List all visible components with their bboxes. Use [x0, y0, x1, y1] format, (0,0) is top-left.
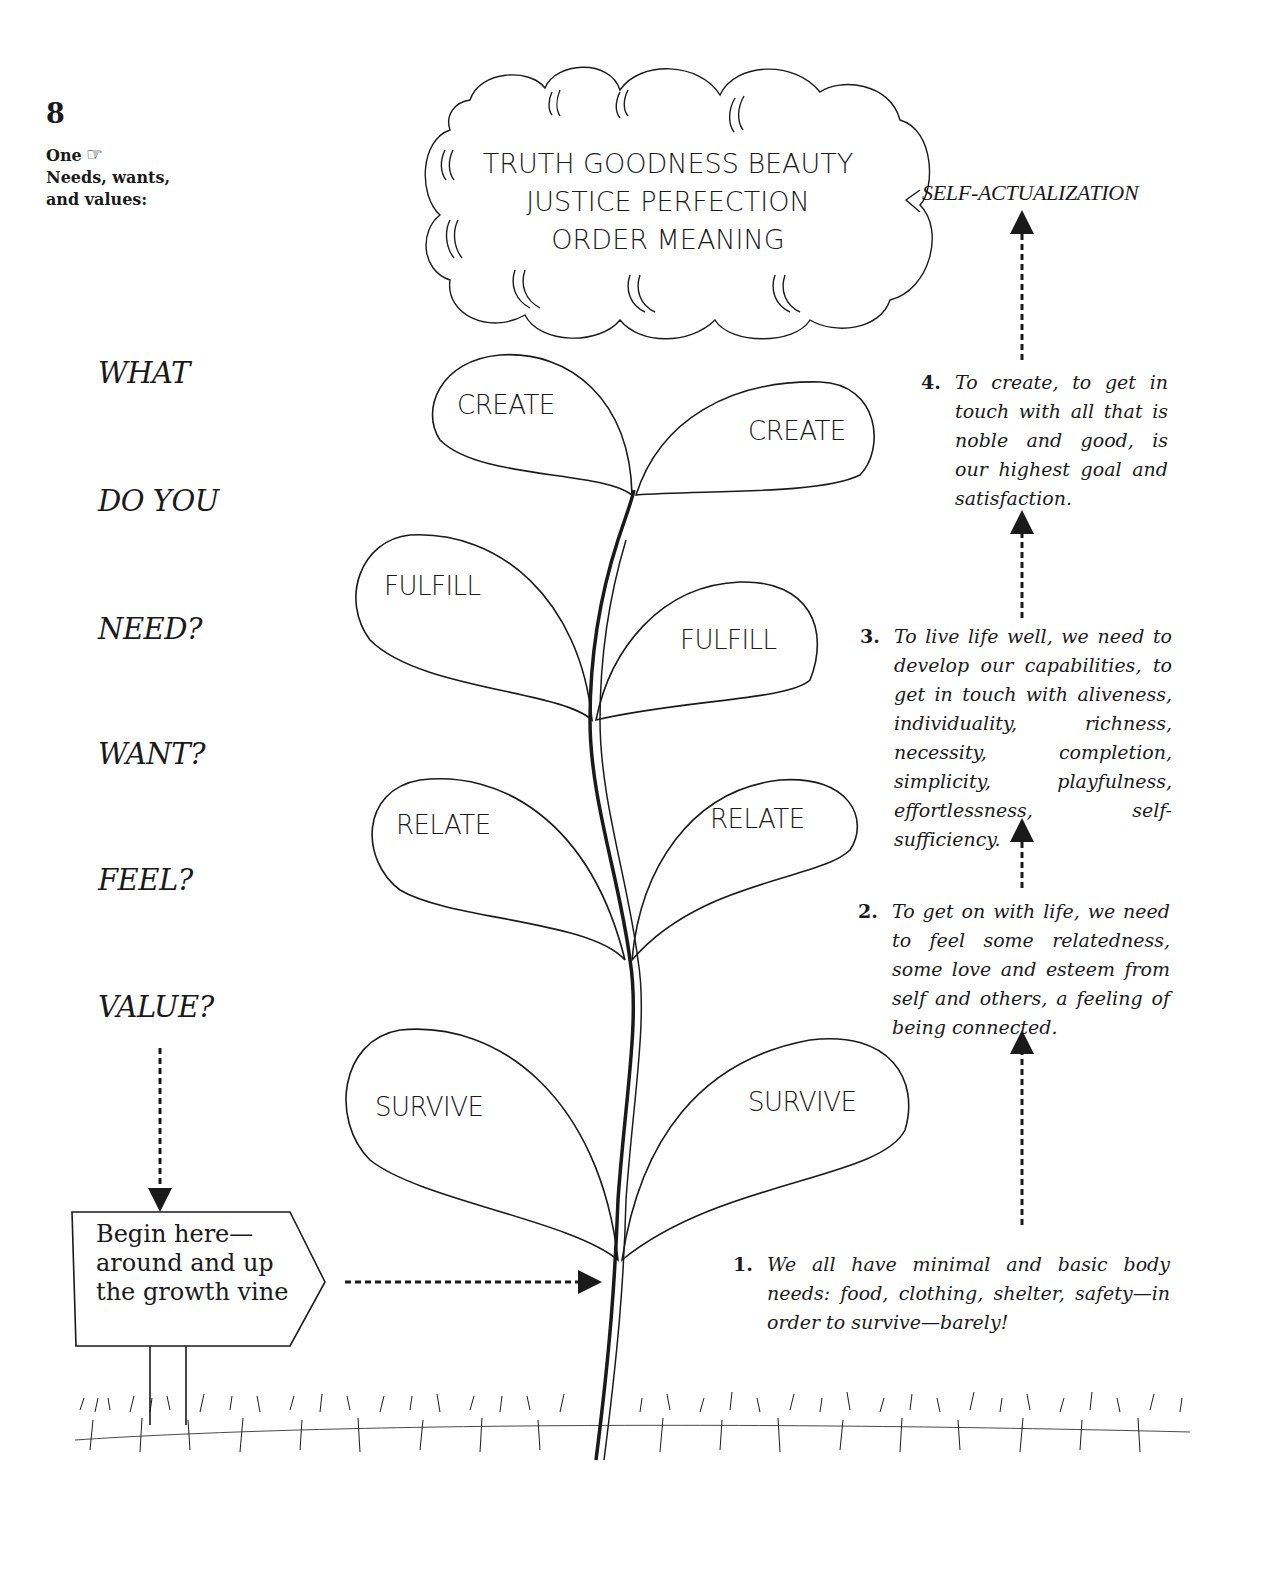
leaf-label-relate-left: RELATE: [396, 810, 491, 840]
vine-stem: [590, 490, 641, 1460]
leaf-label-relate-right: RELATE: [710, 804, 805, 834]
level-1-note: 1. We all have minimal and basic body ne…: [767, 1250, 1170, 1337]
self-actualization-label: SELF-ACTUALIZATION: [922, 180, 1138, 206]
level-2-note: 2. To get on with life, we need to feel …: [892, 897, 1170, 1042]
leaf-label-create-right: CREATE: [748, 416, 846, 446]
leaf-label-create-left: CREATE: [457, 390, 555, 420]
page-number: 8: [46, 98, 65, 129]
level-text: We all have minimal and basic body needs…: [767, 1253, 1170, 1333]
leaf-label-fulfill-left: FULFILL: [384, 571, 481, 601]
cloud-text-line: ORDER MEANING: [458, 224, 878, 255]
begin-sign-text: Begin here— around and up the growth vin…: [96, 1220, 306, 1307]
grass: [75, 1392, 1190, 1452]
section-title-line: Needs, wants,: [46, 167, 170, 189]
level-number: 4.: [921, 368, 941, 397]
pointing-hand-icon: ☞: [86, 143, 103, 165]
level-number: 1.: [733, 1250, 753, 1279]
level-number: 2.: [858, 897, 878, 926]
leaves: [346, 355, 909, 1260]
question-word: DO YOU: [98, 484, 219, 518]
level-text: To live life well, we need to develop ou…: [894, 625, 1172, 850]
level-3-note: 3. To live life well, we need to develop…: [894, 622, 1172, 854]
leaf-label-survive-left: SURVIVE: [375, 1092, 483, 1122]
question-word: WANT?: [98, 737, 205, 771]
level-text: To get on with life, we need to feel som…: [892, 900, 1170, 1038]
question-word: NEED?: [98, 612, 202, 646]
section-title-line: and values:: [46, 189, 170, 211]
level-number: 3.: [860, 622, 880, 651]
question-word: WHAT: [98, 356, 190, 390]
question-word: VALUE?: [98, 990, 214, 1024]
level-4-note: 4. To create, to get in touch with all t…: [955, 368, 1168, 513]
cloud-text-line: TRUTH GOODNESS BEAUTY: [458, 148, 878, 179]
leaf-label-fulfill-right: FULFILL: [680, 625, 777, 655]
question-word: FEEL?: [98, 863, 193, 897]
level-text: To create, to get in touch with all that…: [955, 371, 1168, 509]
leaf-label-survive-right: SURVIVE: [748, 1087, 856, 1117]
cloud-text-line: JUSTICE PERFECTION: [458, 186, 878, 217]
section-number-label: One: [46, 146, 82, 165]
section-title: One☞ Needs, wants, and values:: [46, 143, 170, 211]
